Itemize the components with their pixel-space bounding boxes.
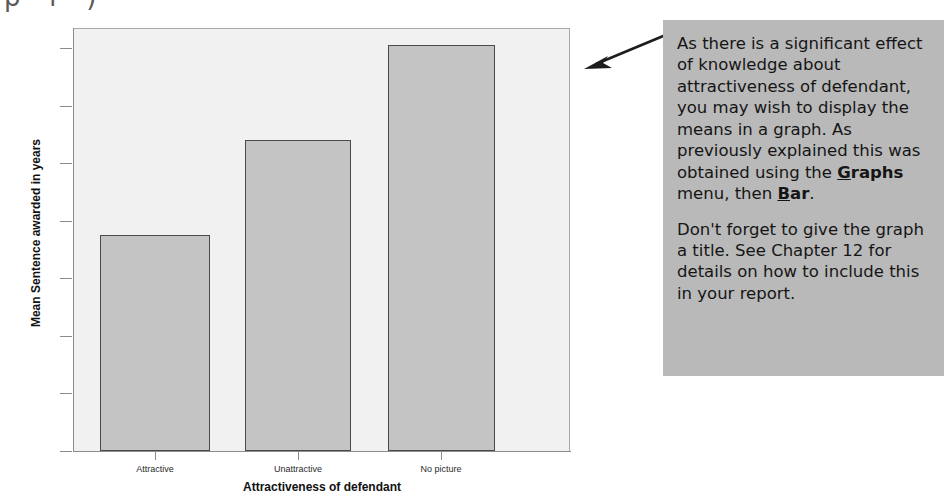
x-tick-mark: [155, 452, 156, 460]
clipped-text-above-figure: p f ): [0, 0, 944, 14]
annotation-text-run: Don't forget to give the graph a title. …: [677, 220, 924, 303]
annotation-text-run: .: [809, 184, 814, 203]
annotation-paragraph: Don't forget to give the graph a title. …: [677, 219, 930, 305]
y-tick-mark: [60, 163, 72, 164]
y-axis-line: [73, 28, 74, 452]
x-axis-title: Attractiveness of defendant: [73, 480, 571, 494]
annotation-text-run: menu, then: [677, 184, 777, 203]
y-tick-mark: [60, 106, 72, 107]
bar-unattractive: [245, 140, 351, 451]
y-tick-mark: [60, 393, 72, 394]
y-tick-mark: [60, 278, 72, 279]
bar-no-picture: [388, 45, 495, 451]
x-axis-line: [73, 451, 571, 452]
annotation-accesskey: G: [837, 163, 851, 182]
bar-attractive: [100, 235, 210, 451]
annotation-paragraph: As there is a significant effect of know…: [677, 33, 930, 205]
x-tick-label: No picture: [420, 464, 461, 474]
y-tick-mark: [60, 336, 72, 337]
x-tick-label: Attractive: [136, 464, 174, 474]
annotation-accesskey: B: [777, 184, 790, 203]
y-tick-mark: [60, 221, 72, 222]
y-tick-mark: [60, 451, 72, 452]
annotation-text-run: raphs: [851, 163, 904, 182]
x-tick-mark: [441, 452, 442, 460]
clipped-text-glyphs: p f ): [4, 0, 106, 12]
bar-chart-figure: Mean Sentence awarded in years 024681012…: [0, 14, 620, 488]
x-tick-label: Unattractive: [274, 464, 322, 474]
annotation-callout: As there is a significant effect of know…: [663, 20, 944, 376]
y-axis-title: Mean Sentence awarded in years: [29, 118, 43, 348]
annotation-text-run: As there is a significant effect of know…: [677, 34, 922, 182]
leftward-arrow-icon: [576, 28, 672, 84]
y-tick-mark: [60, 48, 72, 49]
x-tick-mark: [298, 452, 299, 460]
annotation-text-run: ar: [790, 184, 809, 203]
